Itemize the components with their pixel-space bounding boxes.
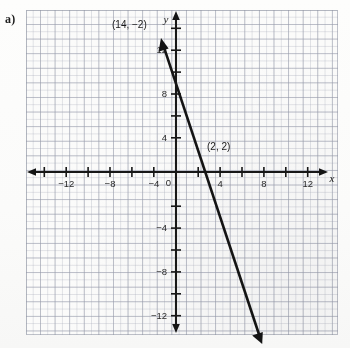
x-tick-label-4: 4: [217, 178, 222, 189]
y-tick-label--8: −8: [156, 266, 167, 277]
x-axis: [27, 168, 328, 176]
y-tick-label-4: 4: [162, 132, 167, 143]
plotted-line: [159, 38, 263, 344]
y-tick-label--12: −12: [151, 310, 167, 321]
origin-label: 0: [166, 177, 171, 188]
y-axis-label: y: [163, 13, 169, 25]
x-tick-label-12: 12: [302, 178, 313, 189]
x-tick-label-8: 8: [261, 178, 266, 189]
y-tick-label-8: 8: [162, 88, 167, 99]
annotation-point-2-2: (2, 2): [207, 141, 230, 152]
graph-overlay: −12 −8 −4 0 4 8 12 12 8 4 −4 −8 −12 x y: [26, 10, 338, 335]
x-tick-label--12: −12: [58, 178, 74, 189]
worksheet-page: a): [0, 0, 350, 348]
annotation-point-14-neg2: (14, −2): [112, 19, 147, 30]
y-tick-label--4: −4: [156, 222, 167, 233]
x-axis-label: x: [329, 172, 335, 184]
x-tick-label--8: −8: [105, 178, 116, 189]
coordinate-graph: −12 −8 −4 0 4 8 12 12 8 4 −4 −8 −12 x y: [26, 10, 338, 335]
x-tick-label--4: −4: [148, 178, 159, 189]
part-label: a): [5, 12, 15, 27]
